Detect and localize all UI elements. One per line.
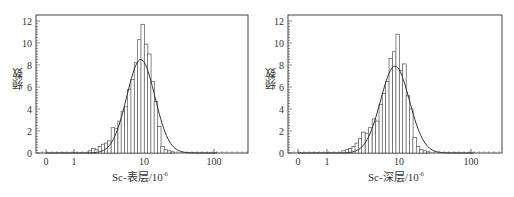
y-tick-label: 10 <box>22 38 32 49</box>
x-axis-label-exponent: -6 <box>419 171 424 177</box>
y-tick-label: 0 <box>27 148 32 159</box>
histogram-bar <box>171 152 175 153</box>
chart-surface-sc: 0246810120110100 频数 Sc-表层/10-6 <box>0 0 257 197</box>
histogram-bar <box>420 150 424 153</box>
x-tick-label: 0 <box>44 156 49 167</box>
histogram-bar <box>355 143 359 153</box>
x-axis-label-main: Sc-深层/10 <box>368 171 419 183</box>
x-axis-label-exponent: -6 <box>163 171 168 177</box>
chart-deep-sc: 0246810120110100 频数 Sc-深层/10-6 <box>257 0 514 197</box>
x-tick-label: 0 <box>296 156 301 167</box>
x-axis-label: Sc-表层/10-6 <box>112 168 168 184</box>
y-tick-label: 2 <box>27 126 32 137</box>
x-axis-label: Sc-深层/10-6 <box>368 168 424 184</box>
y-tick-label: 10 <box>274 38 284 49</box>
histogram-bar <box>386 82 390 154</box>
histogram-bar <box>376 121 380 153</box>
histogram-bar <box>369 128 373 153</box>
y-tick-label: 4 <box>27 104 32 115</box>
x-tick-label: 1 <box>325 156 330 167</box>
x-tick-label: 100 <box>464 156 479 167</box>
y-tick-label: 6 <box>27 82 32 93</box>
x-tick-label: 10 <box>394 156 404 167</box>
histogram-bar <box>403 64 407 153</box>
y-tick-label: 4 <box>279 104 284 115</box>
y-tick-label: 12 <box>22 16 32 27</box>
histogram-bar <box>362 132 366 153</box>
x-axis-label-main: Sc-表层/10 <box>112 171 163 183</box>
y-tick-label: 0 <box>279 148 284 159</box>
y-tick-label: 6 <box>279 82 284 93</box>
y-tick-label: 12 <box>274 16 284 27</box>
y-tick-label: 2 <box>279 126 284 137</box>
histogram-bar <box>426 152 430 153</box>
x-tick-label: 10 <box>139 156 149 167</box>
y-axis-label: 频数 <box>263 68 279 90</box>
y-axis-label: 频数 <box>10 68 26 90</box>
y-tick-label: 8 <box>27 60 32 71</box>
x-tick-label: 1 <box>72 156 77 167</box>
x-tick-label: 100 <box>207 156 222 167</box>
y-tick-label: 8 <box>279 60 284 71</box>
